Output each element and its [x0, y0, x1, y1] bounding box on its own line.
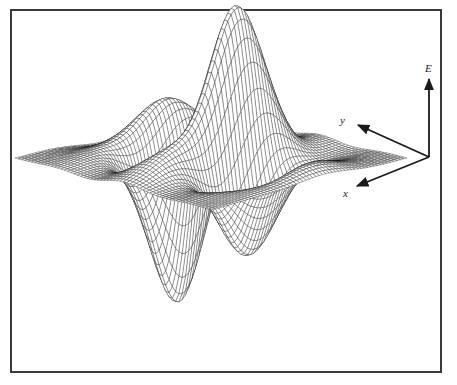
y-axis-label: y	[339, 114, 345, 126]
wireframe-surface	[15, 6, 407, 302]
e-axis-label: E	[424, 62, 432, 74]
x-axis-label: x	[342, 187, 348, 199]
surface-plot: E y x	[0, 0, 457, 385]
axes-indicator: E y x	[339, 62, 432, 199]
